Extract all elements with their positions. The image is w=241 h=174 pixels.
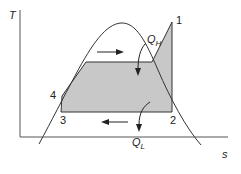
state-label-4: 4 (50, 89, 56, 101)
q-high-label: QH (147, 33, 162, 48)
y-axis-label: T (9, 9, 17, 21)
right-arrow-icon (97, 49, 124, 55)
left-arrow-icon (101, 119, 128, 125)
state-label-1: 1 (176, 14, 182, 26)
state-label-3: 3 (60, 114, 66, 126)
q-low-label: QL (132, 136, 145, 151)
state-label-2: 2 (170, 114, 176, 126)
x-axis-label: s (222, 148, 228, 160)
ts-diagram: T s 1 2 3 4 QH QL (0, 0, 241, 174)
